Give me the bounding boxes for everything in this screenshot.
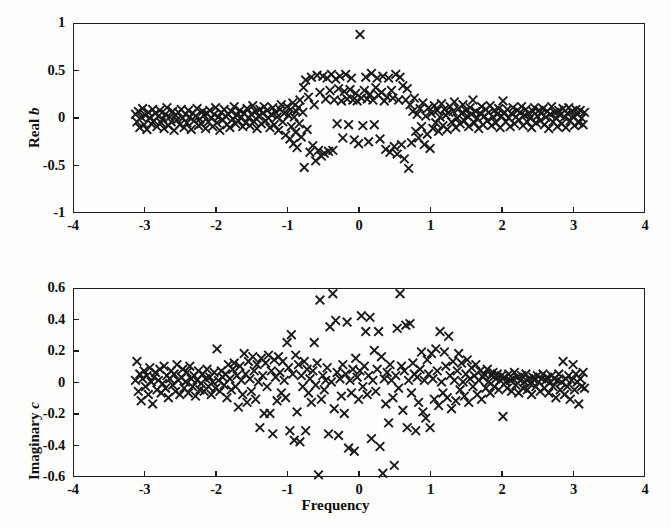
data-point-marker — [329, 289, 338, 298]
data-point-marker — [373, 365, 382, 374]
data-point-marker — [376, 135, 385, 144]
data-point-marker — [356, 30, 365, 39]
y-tick-mark — [73, 117, 79, 119]
data-point-marker — [452, 397, 461, 406]
data-point-marker — [580, 384, 589, 393]
plot-area-imaginary-c — [73, 288, 645, 477]
x-tick-mark — [215, 207, 217, 213]
data-point-marker — [281, 393, 290, 402]
x-tick-label: 1 — [411, 481, 451, 498]
x-tick-mark — [501, 471, 503, 477]
data-point-marker — [389, 393, 398, 402]
x-tick-mark — [358, 471, 360, 477]
data-point-marker — [246, 374, 255, 383]
x-tick-mark — [144, 207, 146, 213]
data-point-marker — [133, 357, 142, 366]
data-point-marker — [316, 296, 325, 305]
data-point-marker — [223, 393, 232, 402]
data-point-marker — [273, 397, 282, 406]
x-tick-mark — [573, 207, 575, 213]
data-point-marker — [386, 360, 395, 369]
data-point-marker — [295, 119, 304, 128]
data-point-marker — [552, 393, 561, 402]
data-point-marker — [426, 423, 435, 432]
x-tick-label: -4 — [53, 481, 93, 498]
data-point-marker — [369, 376, 378, 385]
data-point-marker — [440, 348, 449, 357]
data-point-marker — [376, 442, 385, 451]
data-point-marker — [351, 354, 360, 363]
data-point-marker — [450, 376, 459, 385]
data-point-marker — [331, 316, 340, 325]
data-point-marker — [449, 357, 458, 366]
data-point-marker — [323, 363, 332, 372]
data-point-marker — [363, 390, 372, 399]
data-point-marker — [311, 381, 320, 390]
data-point-marker — [357, 311, 366, 320]
data-point-marker — [317, 395, 326, 404]
data-point-marker — [349, 365, 358, 374]
x-tick-mark — [430, 207, 432, 213]
x-tick-mark — [287, 207, 289, 213]
data-point-marker — [399, 406, 408, 415]
data-point-marker — [339, 360, 348, 369]
data-point-marker — [333, 119, 342, 128]
data-point-marker — [287, 122, 296, 131]
data-point-marker — [314, 471, 323, 480]
y-tick-label: 1 — [1, 14, 65, 31]
data-point-marker — [442, 362, 451, 371]
data-point-marker — [469, 96, 478, 105]
data-point-marker — [403, 84, 412, 93]
data-point-marker — [293, 143, 302, 152]
y-tick-label: 0.6 — [1, 279, 65, 296]
data-point-marker — [321, 95, 330, 104]
y-tick-mark — [73, 382, 79, 384]
data-point-marker — [390, 461, 399, 470]
data-point-marker — [234, 403, 243, 412]
y-tick-label: -0.5 — [1, 157, 65, 174]
y-tick-mark — [73, 319, 79, 321]
data-point-marker — [360, 362, 369, 371]
data-point-marker — [261, 359, 270, 368]
data-point-marker — [417, 348, 426, 357]
y-tick-label: 0.5 — [1, 62, 65, 79]
x-tick-mark — [287, 471, 289, 477]
data-point-marker — [310, 338, 319, 347]
data-point-marker — [370, 120, 379, 129]
data-point-marker — [374, 327, 383, 336]
data-point-marker — [337, 392, 346, 401]
data-point-marker — [266, 409, 275, 418]
data-point-marker — [364, 138, 373, 147]
x-tick-label: 3 — [554, 217, 594, 234]
data-point-marker — [293, 408, 302, 417]
data-point-marker — [326, 86, 335, 95]
data-point-marker — [437, 378, 446, 387]
data-point-marker — [134, 387, 143, 396]
data-point-marker — [417, 122, 426, 131]
data-point-marker — [386, 148, 395, 157]
x-tick-label: -3 — [125, 217, 165, 234]
x-tick-label: 0 — [339, 217, 379, 234]
data-point-marker — [299, 83, 308, 92]
data-point-marker — [304, 93, 313, 102]
x-tick-mark — [501, 207, 503, 213]
x-tick-label: -2 — [196, 217, 236, 234]
y-tick-mark — [73, 165, 79, 167]
data-point-marker — [148, 400, 157, 409]
data-point-marker — [251, 395, 260, 404]
y-tick-label: -0.2 — [1, 405, 65, 422]
data-point-marker — [344, 120, 353, 129]
x-tick-mark — [358, 207, 360, 213]
data-point-marker — [404, 164, 413, 173]
data-point-marker — [367, 434, 376, 443]
data-point-marker — [499, 412, 508, 421]
data-point-marker — [559, 357, 568, 366]
scatter-layer-real-b — [74, 24, 646, 214]
x-tick-label: 0 — [339, 481, 379, 498]
data-point-marker — [407, 138, 416, 147]
x-tick-label: -3 — [125, 481, 165, 498]
data-point-marker — [359, 121, 368, 130]
data-point-marker — [354, 395, 363, 404]
x-axis-title: Frequency — [0, 497, 671, 514]
data-point-marker — [339, 134, 348, 143]
